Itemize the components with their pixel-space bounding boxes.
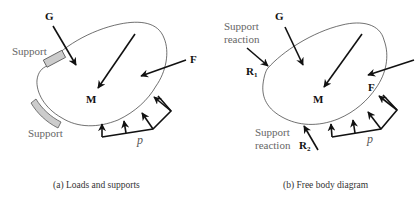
label-m-b: M [313,93,324,105]
diagram-canvas: G M F p Support Support (a) Loads and su… [0,0,418,198]
reaction-r1-arrow [247,48,268,66]
label-g: G [45,10,54,22]
label-g-b: G [275,10,284,22]
label-reaction-bottom-2: reaction [255,139,291,151]
moment-m-arrow [98,34,135,88]
label-support-bottom: Support [28,127,63,139]
label-p: p [136,133,143,147]
label-reaction-bottom-1: Support [255,126,290,138]
caption-b: (b) Free body diagram [283,180,369,191]
label-r1: R1 [246,65,258,79]
moment-m-arrow-b [324,34,362,87]
distributed-load-p [102,96,171,137]
label-reaction-top-2: reaction [224,33,260,45]
panel-b-free-body-diagram: Support reaction R1 G M F p Support reac… [224,10,414,191]
panel-a-loads-and-supports: G M F p Support Support (a) Loads and su… [12,10,197,191]
label-reaction-top-1: Support [224,20,259,32]
free-body-outline [263,23,387,124]
label-f: F [190,53,197,65]
label-support-top: Support [12,45,47,57]
force-f-arrow [141,60,186,76]
caption-a: (a) Loads and supports [53,180,140,191]
distributed-load-p-b [331,95,397,137]
force-f-arrow-b [368,60,414,75]
support-bottom [31,99,61,128]
label-r2: R2 [299,139,311,153]
label-m: M [86,93,97,105]
label-f-b: F [368,81,375,93]
label-p-b: p [366,132,373,146]
force-g-arrow-b [285,27,303,65]
